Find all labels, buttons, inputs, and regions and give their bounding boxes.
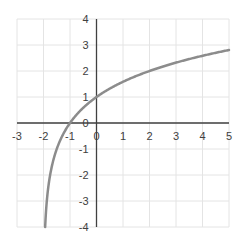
- x-tick-label: -1: [65, 130, 75, 142]
- x-tick-label: -2: [39, 130, 49, 142]
- y-tick-label: 4: [82, 13, 88, 25]
- x-tick-label: 5: [226, 130, 232, 142]
- x-tick-label: -3: [12, 130, 22, 142]
- y-tick-label: 3: [82, 39, 88, 51]
- y-tick-label: -2: [79, 169, 89, 181]
- y-tick-label: 2: [82, 65, 88, 77]
- x-tick-label: 4: [199, 130, 205, 142]
- y-tick-label: 1: [82, 91, 88, 103]
- x-tick-label: 1: [120, 130, 126, 142]
- x-tick-label: 2: [146, 130, 152, 142]
- y-tick-label: -1: [79, 143, 89, 155]
- y-tick-label: -4: [79, 221, 89, 233]
- y-tick-label: 0: [82, 117, 88, 129]
- y-tick-label: -3: [79, 195, 89, 207]
- x-tick-label: 3: [173, 130, 179, 142]
- log-function-chart: -3-2-1012345 43210-1-2-3-4: [0, 0, 243, 242]
- x-tick-label: 0: [93, 130, 99, 142]
- x-tick-labels: -3-2-1012345: [12, 130, 232, 142]
